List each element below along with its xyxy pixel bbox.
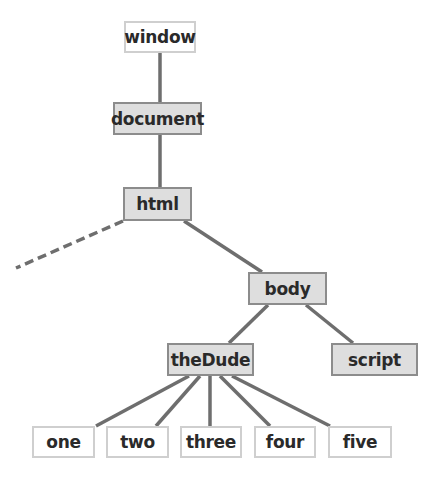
node-document: document	[113, 102, 202, 135]
node-one: one	[32, 426, 95, 458]
node-five: five	[328, 426, 392, 458]
node-label: one	[46, 432, 80, 452]
edge-body-thedude	[229, 305, 268, 343]
node-label: body	[265, 279, 311, 299]
node-label: five	[343, 432, 378, 452]
node-label: html	[136, 194, 179, 214]
node-label: two	[120, 432, 155, 452]
edge-html-body	[184, 221, 262, 272]
edge-body-script	[306, 305, 353, 343]
node-three: three	[180, 426, 242, 458]
node-label: window	[124, 27, 195, 47]
node-label: three	[186, 432, 236, 452]
edge-html-offscreen-dashed	[16, 221, 123, 268]
tree-edges	[0, 0, 437, 479]
node-label: document	[111, 109, 204, 129]
node-two: two	[106, 426, 169, 458]
node-four: four	[254, 426, 316, 458]
node-label: script	[348, 350, 401, 370]
node-label: four	[266, 432, 304, 452]
node-window: window	[124, 21, 196, 53]
node-script: script	[331, 343, 418, 376]
edge-thedude-one	[96, 376, 189, 426]
node-thedude: theDude	[167, 343, 254, 376]
node-label: theDude	[171, 350, 251, 370]
node-body: body	[248, 272, 327, 305]
node-html: html	[123, 187, 192, 221]
